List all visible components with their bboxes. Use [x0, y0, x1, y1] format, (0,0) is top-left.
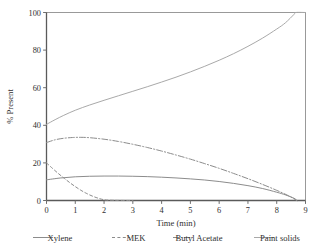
y-tick-label: 0 — [37, 197, 41, 206]
x-tick-label: 9 — [303, 206, 307, 215]
y-tick-label: 20 — [33, 159, 41, 168]
x-tick-label: 5 — [188, 206, 192, 215]
y-tick-label: 100 — [29, 9, 41, 18]
x-tick-label: 0 — [44, 206, 48, 215]
series-line — [47, 176, 297, 200]
x-tick-label: 8 — [275, 206, 279, 215]
legend-label: Butyl Acetate — [175, 233, 222, 243]
y-tick-label: 40 — [33, 121, 41, 130]
series-line — [47, 137, 297, 200]
series-line — [47, 12, 306, 124]
legend-label: MEK — [126, 233, 146, 243]
y-tick-label: 60 — [33, 84, 41, 93]
x-tick-label: 6 — [217, 206, 221, 215]
x-tick-label: 1 — [73, 206, 77, 215]
chart-legend: XyleneMEKButyl AcetatePaint solids — [33, 233, 301, 243]
axis-tick-labels: 0204060801000123456789 — [29, 9, 308, 215]
x-tick-label: 4 — [160, 206, 165, 215]
y-axis-title: % Present — [5, 89, 15, 124]
x-tick-label: 7 — [246, 206, 250, 215]
x-tick-label: 2 — [102, 206, 106, 215]
chart-figure: 0204060801000123456789 Time (min)% Prese… — [0, 0, 322, 252]
series-line — [47, 163, 133, 201]
legend-label: Xylene — [48, 233, 73, 243]
x-axis-title: Time (min) — [156, 218, 195, 228]
legend-label: Paint solids — [260, 233, 301, 243]
y-tick-label: 80 — [33, 46, 41, 55]
x-tick-label: 3 — [131, 206, 135, 215]
data-series — [47, 12, 306, 200]
line-chart: 0204060801000123456789 Time (min)% Prese… — [0, 0, 322, 252]
axis-ticks — [43, 13, 305, 204]
